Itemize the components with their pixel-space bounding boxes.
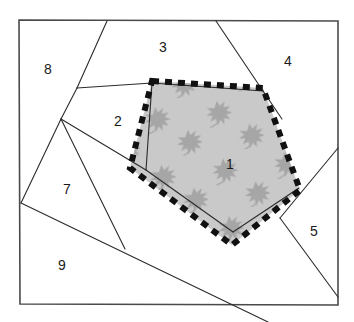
region-label-4: 4 [284, 53, 292, 69]
region-label-5: 5 [310, 223, 318, 239]
region-label-2: 2 [114, 113, 122, 129]
polygon-subdivision-figure: 12345789 [0, 0, 354, 322]
region-label-9: 9 [58, 257, 66, 273]
region-label-8: 8 [44, 61, 52, 77]
region-label-7: 7 [63, 181, 71, 197]
region-label-3: 3 [159, 39, 167, 55]
region-label-1: 1 [226, 156, 234, 172]
diagram-canvas: 12345789 [0, 0, 354, 322]
